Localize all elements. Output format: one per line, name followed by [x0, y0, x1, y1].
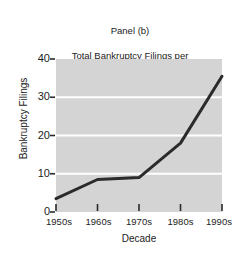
- x-tick-label-1990s: 1990s: [197, 216, 241, 227]
- gridlines: [56, 97, 222, 174]
- x-tick-label-1960s: 1960s: [77, 216, 121, 227]
- x-tick-label-1950s: 1950s: [37, 216, 81, 227]
- x-axis-title: Decade: [56, 233, 222, 244]
- y-axis-title: Bankruptcy Filings: [18, 49, 29, 189]
- x-tick-label-1970s: 1970s: [117, 216, 161, 227]
- x-axis-ticks: [56, 204, 222, 211]
- y-tick-label-20: 20: [26, 130, 50, 141]
- bankruptcy-filings-chart: Panel (b) Total Bankruptcy Filings per 1…: [0, 0, 243, 260]
- data-line-bankruptcy-filings: [56, 76, 222, 198]
- x-tick-label-1980s: 1980s: [159, 216, 203, 227]
- y-axis-ticks: [50, 59, 55, 212]
- y-tick-label-30: 30: [26, 91, 50, 102]
- y-tick-label-40: 40: [26, 53, 50, 64]
- x-axis-tick-labels: 1950s 1960s 1970s 1980s 1990s: [56, 216, 222, 232]
- y-tick-label-10: 10: [26, 168, 50, 179]
